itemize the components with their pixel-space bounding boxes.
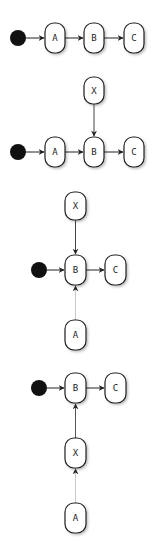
diagram-canvas: A B C X A B C X B C A B C X A (0, 0, 161, 550)
svg-text:C: C (113, 265, 118, 275)
node-x: X (84, 77, 104, 104)
diagram-3-a-below-b: X B C A (31, 192, 126, 350)
diagram-1-linear-flow: A B C (10, 23, 144, 53)
svg-text:B: B (73, 265, 78, 275)
svg-text:A: A (52, 33, 58, 43)
svg-text:C: C (131, 33, 136, 43)
svg-text:B: B (91, 33, 96, 43)
svg-text:A: A (73, 513, 79, 523)
node-a: A (65, 503, 86, 533)
node-x: X (65, 192, 86, 220)
start-node (10, 30, 26, 46)
diagram-2-x-above-b: X A B C (10, 77, 144, 167)
svg-text:X: X (73, 201, 79, 211)
svg-text:A: A (73, 330, 79, 340)
svg-text:X: X (91, 86, 97, 96)
node-b: B (84, 23, 104, 53)
svg-text:C: C (131, 147, 136, 157)
node-a: A (45, 23, 65, 53)
node-c: C (105, 255, 126, 285)
svg-text:X: X (73, 448, 79, 458)
node-x: X (65, 438, 86, 468)
start-node (31, 380, 47, 396)
node-a: A (45, 137, 65, 167)
svg-text:B: B (91, 147, 96, 157)
node-c: C (105, 373, 126, 403)
svg-text:B: B (73, 383, 78, 393)
start-node (31, 262, 47, 278)
diagram-4-x-chained-below-b: B C X A (31, 373, 126, 533)
node-b: B (84, 137, 104, 167)
node-a: A (65, 320, 86, 350)
svg-text:C: C (113, 383, 118, 393)
node-b: B (65, 373, 86, 403)
start-node (10, 144, 26, 160)
svg-text:A: A (52, 147, 58, 157)
node-c: C (124, 23, 144, 53)
node-c: C (124, 137, 144, 167)
node-b: B (65, 255, 86, 285)
